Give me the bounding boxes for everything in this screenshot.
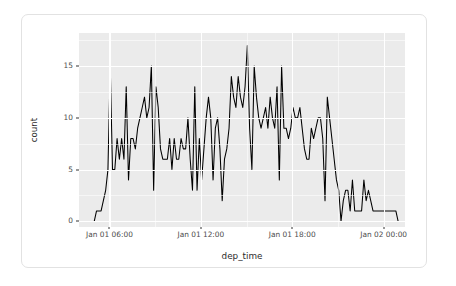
y-tick-label: 15 — [64, 62, 73, 69]
gridline-major-y — [79, 66, 405, 67]
gridline-major-y — [79, 170, 405, 171]
y-tick-mark — [76, 117, 78, 118]
plot-panel — [79, 33, 405, 227]
gridline-minor-x — [247, 33, 248, 227]
x-tick-label: Jan 01 12:00 — [177, 231, 224, 238]
line-chart: 051015 Jan 01 06:00Jan 01 12:00Jan 01 18… — [22, 15, 428, 269]
y-tick-mark — [76, 221, 78, 222]
gridline-minor-y — [79, 144, 405, 145]
y-tick-mark — [76, 66, 78, 67]
x-tick-label: Jan 01 18:00 — [269, 231, 316, 238]
gridline-major-x — [292, 33, 293, 227]
gridline-minor-x — [338, 33, 339, 227]
gridline-minor-y — [79, 92, 405, 93]
x-axis: Jan 01 06:00Jan 01 12:00Jan 01 18:00Jan … — [22, 227, 425, 251]
gridline-major-x — [201, 33, 202, 227]
gridline-major-x — [384, 33, 385, 227]
figure-card: 051015 Jan 01 06:00Jan 01 12:00Jan 01 18… — [21, 14, 427, 268]
gridline-minor-y — [79, 40, 405, 41]
x-axis-title: dep_time — [79, 251, 405, 261]
x-tick-label: Jan 02 00:00 — [360, 231, 407, 238]
y-tick-label: 0 — [68, 218, 73, 225]
gridline-major-y — [79, 221, 405, 222]
gridline-minor-y — [79, 195, 405, 196]
gridline-major-y — [79, 118, 405, 119]
gridline-major-x — [109, 33, 110, 227]
gridline-minor-x — [155, 33, 156, 227]
x-tick-label: Jan 01 06:00 — [86, 231, 133, 238]
y-tick-label: 10 — [64, 114, 73, 121]
y-tick-mark — [76, 169, 78, 170]
series-line-layer — [79, 33, 405, 227]
y-axis-title: count — [29, 118, 39, 142]
y-tick-label: 5 — [68, 166, 73, 173]
